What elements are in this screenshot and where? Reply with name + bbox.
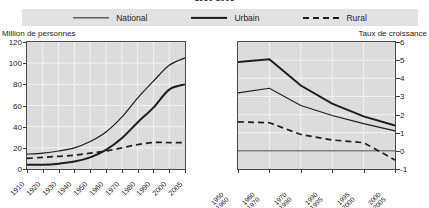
- chart-legend: National Urbain Rural: [22, 9, 418, 26]
- left-x-tick: [185, 169, 186, 173]
- left-y-tick-label: 40: [0, 122, 22, 131]
- right-y-tick-label: 0: [400, 146, 420, 155]
- left-x-tick: [138, 169, 139, 173]
- left-x-tick: [59, 169, 60, 173]
- left-y-tick-label: 60: [0, 101, 22, 110]
- right-x-tick: [364, 169, 365, 173]
- left-x-tick-label: 1960: [88, 180, 105, 197]
- legend-label-rural: Rural: [346, 13, 366, 23]
- right-x-tick: [238, 169, 239, 173]
- right-y-tick: [396, 169, 400, 170]
- figure-container: 1950-2005 National Urbain Rural Million …: [0, 0, 429, 208]
- left-x-tick-label: 1980: [120, 180, 137, 197]
- right-x-tick-label: 20002005: [367, 191, 387, 208]
- left-y-tick: [23, 127, 27, 128]
- right-x-tick-label: 19952000: [336, 191, 356, 208]
- left-x-tick-label: 1990: [135, 180, 152, 197]
- right-y-tick: [396, 151, 400, 152]
- left-x-tick: [122, 169, 123, 173]
- left-x-tick: [169, 169, 170, 173]
- legend-item-urbain: Urbain: [191, 13, 259, 23]
- right-x-tick: [269, 169, 270, 173]
- right-y-tick-label: 1: [400, 128, 420, 137]
- left-x-tick: [27, 169, 28, 173]
- dashed-line-swatch-icon: [303, 14, 339, 21]
- left-x-tick-label: 1970: [104, 180, 121, 197]
- line-swatch-icon: [191, 14, 227, 21]
- left-x-tick-label: 1910: [9, 180, 26, 197]
- right-y-tick: [396, 133, 400, 134]
- right-y-tick: [396, 96, 400, 97]
- right-x-tick: [332, 169, 333, 173]
- left-y-tick-label: 0: [0, 165, 22, 174]
- right-chart-gridlines: [238, 42, 395, 169]
- right-y-tick-label: -1: [400, 165, 420, 174]
- left-y-tick-label: 80: [0, 80, 22, 89]
- left-x-tick: [106, 169, 107, 173]
- left-x-tick-label: 1920: [25, 180, 42, 197]
- left-y-tick: [23, 106, 27, 107]
- left-y-tick: [23, 42, 27, 43]
- left-x-tick-label: 2005: [167, 180, 184, 197]
- left-x-tick-label: 2000: [151, 180, 168, 197]
- left-x-tick-label: 1940: [56, 180, 73, 197]
- right-y-tick: [396, 60, 400, 61]
- left-y-tick: [23, 84, 27, 85]
- left-x-tick: [90, 169, 91, 173]
- figure-title-strip: 1950-2005: [0, 0, 429, 7]
- right-chart-plot-area: [237, 41, 396, 170]
- left-y-tick-label: 100: [0, 59, 22, 68]
- right-x-tick-label: 19701990: [273, 191, 293, 208]
- right-x-tick-label: 19601970: [242, 191, 262, 208]
- right-series-rural: [238, 122, 395, 160]
- right-y-tick-label: 3: [400, 92, 420, 101]
- left-x-tick-label: 1950: [72, 180, 89, 197]
- left-y-tick-label: 120: [0, 38, 22, 47]
- right-x-tick: [301, 169, 302, 173]
- right-y-tick: [396, 78, 400, 79]
- legend-item-national: National: [73, 13, 147, 23]
- left-x-tick: [74, 169, 75, 173]
- right-x-tick-label: 19501960: [210, 191, 230, 208]
- legend-item-rural: Rural: [303, 13, 366, 23]
- legend-label-national: National: [116, 13, 147, 23]
- left-x-tick: [153, 169, 154, 173]
- right-y-tick: [396, 42, 400, 43]
- right-y-tick-label: 2: [400, 110, 420, 119]
- line-swatch-icon: [73, 14, 109, 21]
- left-y-tick: [23, 63, 27, 64]
- left-chart-plot-area: [26, 41, 186, 170]
- figure-title: 1950-2005: [0, 0, 429, 3]
- right-y-tick-label: 4: [400, 74, 420, 83]
- legend-label-urbain: Urbain: [234, 13, 259, 23]
- right-series-urbain: [238, 59, 395, 125]
- right-x-tick: [395, 169, 396, 173]
- right-y-tick: [396, 115, 400, 116]
- left-y-tick: [23, 148, 27, 149]
- left-y-tick-label: 20: [0, 143, 22, 152]
- left-x-tick-label: 1930: [41, 180, 58, 197]
- right-y-tick-label: 5: [400, 56, 420, 65]
- right-x-tick-label: 19901995: [304, 191, 324, 208]
- right-y-tick-label: 6: [400, 38, 420, 47]
- left-chart-svg: [27, 42, 185, 169]
- left-x-tick: [43, 169, 44, 173]
- right-chart-svg: [238, 42, 395, 169]
